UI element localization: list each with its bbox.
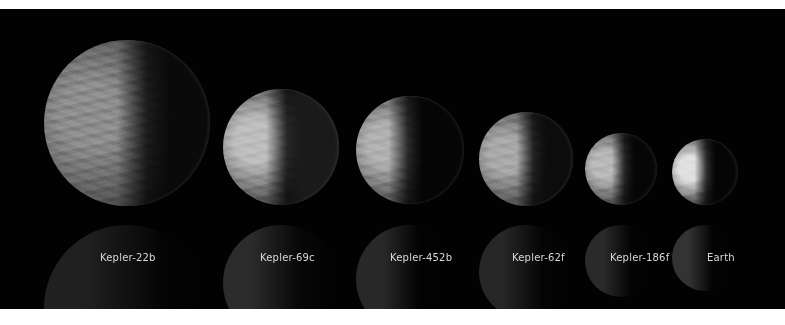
planet-label-kepler-22b: Kepler-22b (100, 252, 156, 264)
planet-reflection-kepler-69c (223, 225, 339, 309)
planet-label-earth: Earth (707, 252, 735, 264)
planet-kepler-62f (479, 112, 573, 206)
planet-kepler-69c (223, 89, 339, 205)
planet-earth (672, 139, 738, 205)
planet-reflection-kepler-22b (44, 225, 210, 309)
planet-label-kepler-186f: Kepler-186f (610, 252, 669, 264)
space-background: Kepler-22bKepler-69cKepler-452bKepler-62… (0, 9, 785, 309)
planet-label-kepler-452b: Kepler-452b (390, 252, 452, 264)
planet-kepler-186f (585, 133, 657, 205)
planet-kepler-452b (356, 96, 464, 204)
planet-label-kepler-69c: Kepler-69c (260, 252, 315, 264)
planet-reflection-kepler-452b (356, 225, 464, 309)
planet-kepler-22b (44, 40, 210, 206)
planet-reflection-kepler-62f (479, 225, 573, 309)
planet-label-kepler-62f: Kepler-62f (512, 252, 565, 264)
